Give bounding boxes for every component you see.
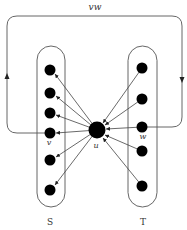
- node-w: [137, 122, 148, 133]
- node-s1: [45, 65, 56, 76]
- set-t-nodes: [137, 63, 148, 192]
- node-s3: [45, 108, 56, 119]
- node-v: [45, 128, 56, 139]
- node-s6: [45, 185, 56, 196]
- set-t-label: T: [140, 217, 146, 227]
- node-s5: [45, 155, 56, 166]
- graph-figure: vw u v w S T: [0, 0, 187, 230]
- loop-edge-vw: [5, 16, 185, 133]
- set-s-label: S: [47, 217, 53, 227]
- node-u-label: u: [93, 141, 98, 150]
- arrow-down-icon: [180, 77, 185, 83]
- edges-t-to-u: [103, 68, 142, 186]
- node-v-label: v: [47, 138, 52, 147]
- node-s2: [45, 88, 56, 99]
- loop-label: vw: [89, 2, 102, 12]
- node-t2: [137, 94, 148, 105]
- node-w-label: w: [140, 132, 147, 141]
- diagram-canvas: vw u v w S T: [0, 0, 187, 230]
- set-s-nodes: [45, 65, 56, 196]
- arrow-up-icon: [5, 73, 10, 79]
- node-t5: [137, 181, 148, 192]
- node-u: [89, 122, 106, 139]
- node-t4: [137, 146, 148, 157]
- node-t1: [137, 63, 148, 74]
